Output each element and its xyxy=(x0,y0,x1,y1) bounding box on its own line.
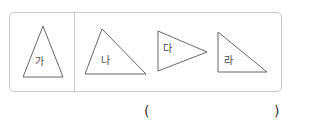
triangle-na xyxy=(85,29,146,74)
triangle-ra xyxy=(218,32,267,72)
label-na: 나 xyxy=(101,56,110,66)
answer-open-paren: ( xyxy=(144,104,149,118)
answer-close-paren: ) xyxy=(274,104,279,118)
triangle-ga xyxy=(23,26,63,77)
label-da: 다 xyxy=(163,44,172,54)
label-ga: 가 xyxy=(35,57,44,67)
answer-blank[interactable] xyxy=(152,104,272,120)
label-ra: 라 xyxy=(224,56,233,66)
